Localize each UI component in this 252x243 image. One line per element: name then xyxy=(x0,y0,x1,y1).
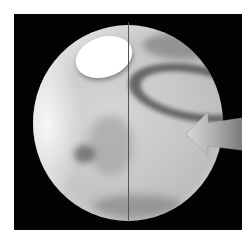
central-meridian-line xyxy=(128,22,129,222)
arrow-left-icon xyxy=(184,110,242,158)
image-frame xyxy=(14,14,242,230)
